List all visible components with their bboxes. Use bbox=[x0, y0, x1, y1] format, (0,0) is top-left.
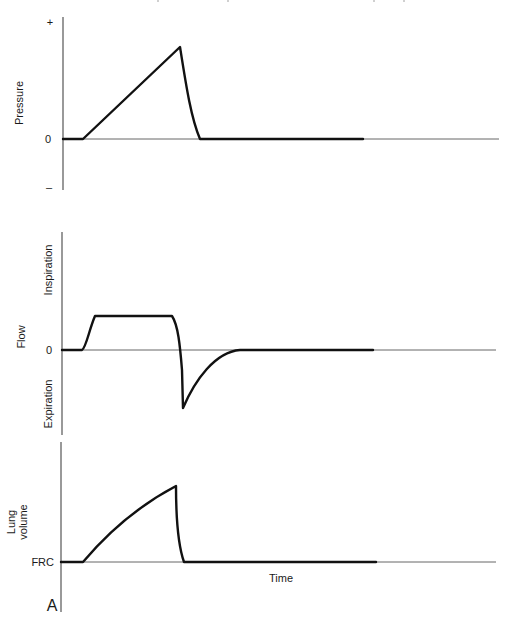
pressure-axis-title: Pressure bbox=[13, 81, 25, 125]
pressure-minus-tick: – bbox=[46, 181, 53, 193]
flow-axis-title: Flow bbox=[15, 325, 27, 348]
volume-frc-tick: FRC bbox=[31, 556, 54, 568]
pressure-zero-tick: 0 bbox=[45, 133, 51, 145]
flow-panel: 0 Inspiration Expiration Flow bbox=[15, 232, 496, 435]
flow-expiration-label: Expiration bbox=[42, 380, 54, 429]
volume-curve bbox=[61, 486, 376, 562]
time-axis-label: Time bbox=[269, 572, 293, 584]
pressure-panel: + 0 – Pressure bbox=[13, 16, 499, 193]
volume-axis-title-line1: Lung bbox=[5, 510, 17, 534]
flow-curve bbox=[62, 316, 373, 408]
ventilation-waveforms-figure: + 0 – Pressure 0 Inspiration Expiration … bbox=[0, 0, 508, 617]
pressure-plus-tick: + bbox=[47, 16, 53, 28]
volume-panel: FRC Lung volume Time A bbox=[5, 442, 496, 614]
volume-axis-title-line2: volume bbox=[17, 504, 29, 539]
flow-inspiration-label: Inspiration bbox=[42, 245, 54, 296]
pressure-curve bbox=[63, 47, 363, 139]
panel-letter: A bbox=[47, 597, 58, 614]
cropped-caption-fragment bbox=[158, 0, 404, 2]
flow-zero-tick: 0 bbox=[46, 344, 52, 356]
